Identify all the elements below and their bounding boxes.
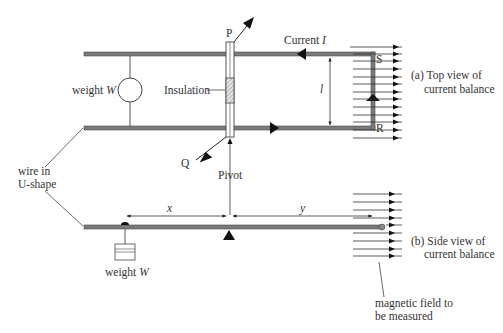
field-label-line2: be measured — [375, 310, 433, 322]
insulation-label: Insulation — [164, 84, 210, 96]
current-arrow-up-icon — [366, 94, 380, 101]
current-symbol: I — [321, 34, 327, 46]
side-view-caption-1: (b) Side view of — [411, 235, 486, 248]
current-arrow-left-icon — [297, 48, 306, 60]
field-label-line1: magnetic field to — [375, 297, 453, 310]
wire-label-line2: U-shape — [18, 178, 56, 191]
current-arrow-right-icon — [270, 122, 279, 134]
wire-leader-top — [45, 128, 83, 167]
side-weight-symbol: W — [139, 266, 150, 278]
top-weight-symbol: W — [106, 84, 117, 96]
field-arrowheads-side — [389, 192, 395, 259]
weight-circle — [118, 78, 142, 102]
force-arrow-q-head-icon — [199, 151, 213, 162]
side-weight-label: weight W — [105, 266, 150, 279]
side-beam-end — [379, 224, 385, 230]
top-weight-text: weight — [72, 84, 106, 97]
end-segment-sr — [371, 52, 375, 130]
side-beam-wire — [84, 225, 382, 229]
pivot-pointer-head-icon — [228, 138, 233, 144]
side-view: x y weight W (b) Side view of current ba… — [84, 192, 495, 323]
top-view-caption-2: current balance — [424, 83, 495, 95]
point-r-label: R — [376, 122, 384, 134]
distance-y-label: y — [299, 202, 306, 215]
wire-leader-bottom — [45, 191, 83, 226]
distance-x-label: x — [166, 202, 173, 214]
point-p-label: P — [226, 27, 232, 39]
point-s-label: S — [376, 53, 382, 65]
pivot-label: Pivot — [218, 169, 243, 181]
current-balance-diagram: P Q S R Current I l Insulation weight W … — [0, 0, 503, 333]
current-label-text: Current — [284, 34, 322, 46]
insulation-segment — [226, 78, 234, 103]
field-leader-line — [379, 262, 384, 297]
point-q-label: Q — [181, 157, 190, 169]
top-weight-label: weight W — [72, 84, 117, 97]
length-l-label: l — [320, 83, 323, 95]
wire-label-line1: wire in — [18, 165, 51, 177]
side-weight-text: weight — [105, 266, 139, 279]
wire-label-group: wire in U-shape — [18, 128, 83, 226]
field-arrowheads-top — [393, 45, 399, 141]
current-label: Current I — [284, 34, 327, 46]
top-view: P Q S R Current I l Insulation weight W … — [72, 17, 495, 215]
weight-rider-icon — [121, 222, 129, 225]
side-view-caption-2: current balance — [424, 248, 495, 260]
top-view-caption-1: (a) Top view of — [411, 69, 482, 82]
force-arrow-p-head-icon — [243, 17, 254, 29]
pivot-triangle-icon — [223, 230, 235, 240]
